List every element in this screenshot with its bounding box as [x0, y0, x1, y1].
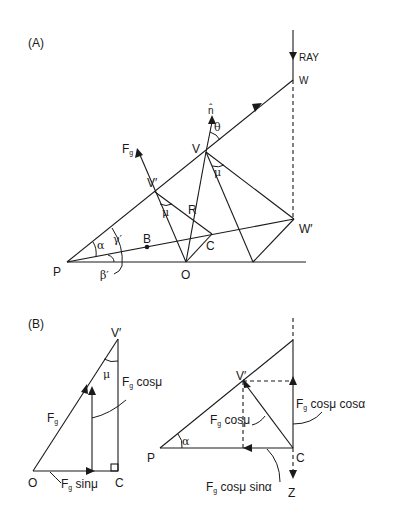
label-W-prime: W′ [299, 222, 313, 236]
beta-arc [108, 255, 114, 262]
leader-cos-mu [92, 400, 126, 418]
mu-arc [104, 359, 118, 362]
label-O: O [181, 268, 190, 282]
incoming-arrow-icon [252, 103, 262, 112]
panel-label-b: (B) [28, 317, 44, 331]
panel-label-a: (A) [28, 36, 44, 50]
hypotenuse-fg [33, 339, 118, 471]
line-v-wprime [206, 152, 294, 219]
label-C: C [206, 239, 215, 253]
label-fg-sin-mu: Fg sinμ [61, 477, 98, 492]
label-mu-vprime: μ [162, 206, 169, 219]
label-mu: μ [103, 368, 110, 381]
right-angle-marker [111, 464, 118, 471]
fg-arrow-icon [135, 148, 143, 158]
leader-sin-mu [50, 472, 61, 483]
label-alpha: α [182, 435, 190, 448]
label-P: P [147, 451, 155, 465]
line-w-p [67, 80, 293, 262]
label-fg-cos-mu-cos-alpha: Fg cosμ cosα [296, 397, 365, 412]
left-triangle: μ V′ Fg Fg cosμ O C Fg sinμ [28, 326, 162, 492]
label-gamma-prime: γ′ [113, 233, 123, 246]
label-R: R [188, 203, 197, 217]
label-O: O [28, 476, 37, 490]
figure: (A) RAY W n̂ θ Fg V V′ R [0, 0, 393, 523]
label-C: C [115, 476, 124, 490]
label-fg-cos-mu-sin-alpha: Fg cosμ sinα [206, 480, 272, 495]
diagram-b: (B) μ V′ Fg Fg cosμ O C Fg sinμ [28, 317, 365, 500]
leader-cos-alpha [293, 412, 322, 424]
left-arrow-icon [243, 444, 252, 452]
label-theta: θ [214, 121, 221, 134]
label-Z: Z [288, 486, 295, 500]
label-V: V [192, 142, 200, 156]
label-fg-cos-mu: Fg cosμ [122, 375, 162, 390]
diagram-a: (A) RAY W n̂ θ Fg V V′ R [28, 30, 319, 282]
leader-cos-mu [252, 416, 265, 425]
label-beta-prime: β′ [100, 269, 109, 282]
right-triangle: α V′ P C Z Fg cosμ Fg cosμ cosα Fg cosμ … [147, 318, 365, 500]
sin-arrow-icon [86, 467, 95, 475]
line-c-vprime [243, 381, 293, 448]
label-V-prime: V′ [236, 369, 247, 383]
label-alpha: α [97, 239, 105, 252]
label-mu-v: μ [214, 166, 221, 179]
label-V-prime: V′ [111, 326, 122, 340]
ray-arrow-icon [289, 52, 297, 60]
cos-arrow-icon [88, 386, 96, 395]
leader-sin-alpha [267, 449, 280, 482]
label-fg-cos-mu: Fg cosμ [210, 413, 250, 428]
label-ray: RAY [299, 52, 319, 63]
alpha-arc [93, 242, 96, 257]
label-fg: Fg [47, 411, 58, 426]
label-W: W [299, 75, 309, 86]
label-B: B [143, 232, 151, 246]
label-n-hat: n̂ [208, 103, 214, 116]
hypotenuse-p-top [160, 340, 293, 448]
z-arrow-icon [289, 470, 297, 479]
label-V-prime: V′ [147, 176, 158, 190]
label-C: C [296, 451, 305, 465]
label-P: P [53, 265, 61, 279]
label-fg: Fg [122, 142, 133, 157]
fg-arrow-icon [81, 384, 88, 394]
